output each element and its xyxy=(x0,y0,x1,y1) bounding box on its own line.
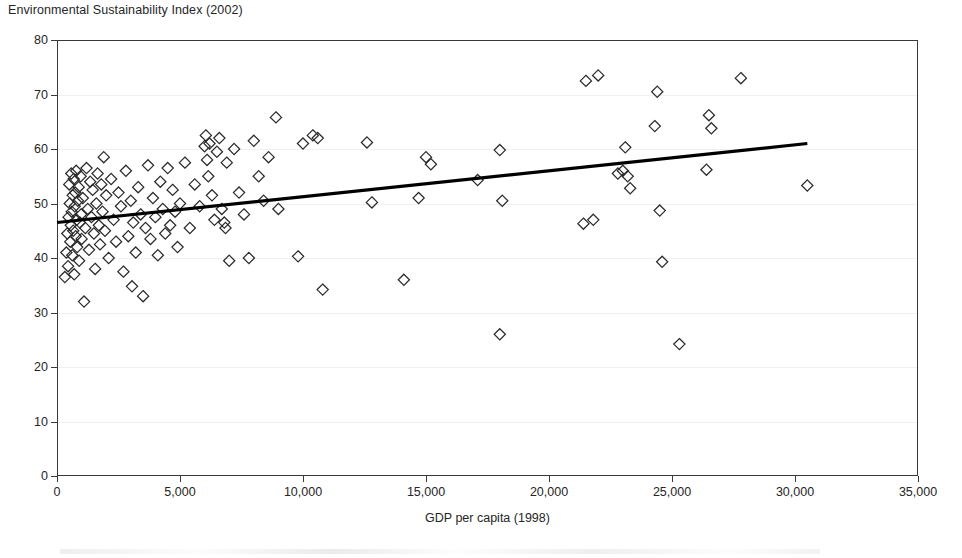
scatter-point xyxy=(69,269,80,280)
scatter-point xyxy=(133,182,144,193)
scatter-point xyxy=(674,339,685,350)
scatter-point xyxy=(494,329,505,340)
scatter-point xyxy=(649,121,660,132)
scatter-point xyxy=(209,214,220,225)
scatter-point xyxy=(62,261,73,272)
scatter-point xyxy=(248,135,259,146)
scatter-point xyxy=(497,195,508,206)
scatter-point xyxy=(229,143,240,154)
x-tick-label: 30,000 xyxy=(776,485,814,499)
scatter-point xyxy=(123,231,134,242)
scatter-point xyxy=(263,152,274,163)
y-tick-label: 20 xyxy=(34,360,48,374)
x-tick-label: 5,000 xyxy=(164,485,195,499)
scatter-point xyxy=(115,201,126,212)
scatter-point xyxy=(273,203,284,214)
scatter-point xyxy=(703,110,714,121)
scatter-point xyxy=(172,242,183,253)
x-tick-mark xyxy=(57,476,58,482)
scatter-point xyxy=(735,73,746,84)
scatter-point xyxy=(580,75,591,86)
trend-line xyxy=(57,144,807,223)
scatter-point xyxy=(138,291,149,302)
scatter-point xyxy=(125,195,136,206)
scatter-point xyxy=(110,236,121,247)
scatter-point xyxy=(162,162,173,173)
x-tick-label: 15,000 xyxy=(407,485,445,499)
x-tick-mark xyxy=(180,476,181,482)
scatter-point xyxy=(620,142,631,153)
scatter-point xyxy=(224,255,235,266)
scatter-point xyxy=(59,271,70,282)
scatter-point xyxy=(128,217,139,228)
x-tick-mark xyxy=(795,476,796,482)
scatter-point xyxy=(494,144,505,155)
x-tick-mark xyxy=(549,476,550,482)
scatter-point xyxy=(98,152,109,163)
scatter-point xyxy=(398,274,409,285)
scatter-point xyxy=(113,187,124,198)
scatter-point xyxy=(97,206,108,217)
scatter-point xyxy=(366,197,377,208)
scatter-point xyxy=(142,160,153,171)
scatter-point xyxy=(99,225,110,236)
y-tick-label: 50 xyxy=(34,197,48,211)
x-tick-label: 0 xyxy=(54,485,61,499)
scatter-point xyxy=(420,152,431,163)
scatter-point xyxy=(130,247,141,258)
scatter-point xyxy=(413,192,424,203)
scatter-point xyxy=(179,157,190,168)
scatter-point xyxy=(147,192,158,203)
scatter-point xyxy=(270,112,281,123)
chart-figure: Environmental Sustainability Index (2002… xyxy=(0,0,962,558)
scatter-point xyxy=(155,176,166,187)
data-layer xyxy=(57,40,918,476)
y-tick-label: 30 xyxy=(34,306,48,320)
scatter-point xyxy=(145,233,156,244)
scatter-point xyxy=(200,130,211,141)
x-tick-mark xyxy=(918,476,919,482)
chart-title: Environmental Sustainability Index (2002… xyxy=(8,3,243,17)
x-tick-mark xyxy=(672,476,673,482)
y-tick-label: 60 xyxy=(34,142,48,156)
scatter-point xyxy=(802,180,813,191)
scatter-point xyxy=(94,239,105,250)
x-tick-label: 25,000 xyxy=(653,485,691,499)
scatter-point xyxy=(126,281,137,292)
scatter-point xyxy=(184,222,195,233)
scatter-point xyxy=(706,123,717,134)
scatter-point xyxy=(83,244,94,255)
x-tick-mark xyxy=(303,476,304,482)
y-tick-label: 80 xyxy=(34,33,48,47)
scatter-point xyxy=(652,86,663,97)
scatter-point xyxy=(625,183,636,194)
scatter-point xyxy=(206,190,217,201)
scatter-point xyxy=(292,251,303,262)
scatter-point xyxy=(425,159,436,170)
scatter-point xyxy=(238,209,249,220)
scatter-point xyxy=(189,179,200,190)
scatter-point xyxy=(219,217,230,228)
scatter-point xyxy=(297,138,308,149)
scatter-point xyxy=(203,171,214,182)
scatter-point xyxy=(106,173,117,184)
x-tick-label: 20,000 xyxy=(530,485,568,499)
y-tick-label: 10 xyxy=(34,415,48,429)
y-tick-label: 70 xyxy=(34,88,48,102)
scatter-point xyxy=(253,171,264,182)
scatter-point xyxy=(221,157,232,168)
scatter-point xyxy=(233,187,244,198)
scatter-point xyxy=(201,154,212,165)
scatter-point xyxy=(317,284,328,295)
scatter-point xyxy=(103,252,114,263)
x-axis-title: GDP per capita (1998) xyxy=(57,511,918,525)
scatter-point xyxy=(214,133,225,144)
scatter-point xyxy=(152,250,163,261)
plot-area: 01020304050607080 05,00010,00015,00020,0… xyxy=(57,40,918,476)
scatter-point xyxy=(120,165,131,176)
scatter-point xyxy=(68,225,79,236)
x-tick-label: 35,000 xyxy=(899,485,937,499)
y-tick-label: 0 xyxy=(41,469,48,483)
scatter-point xyxy=(220,222,231,233)
scatter-point xyxy=(61,247,72,258)
